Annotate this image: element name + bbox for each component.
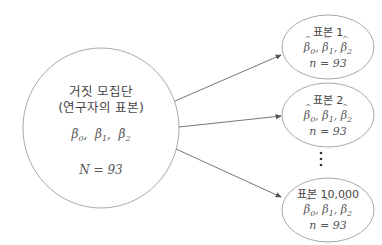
sample-estimates: β0, β1, β2 — [281, 109, 375, 125]
sample-2-node: 표본 2 β0, β1, β2 n = 93 — [281, 94, 375, 139]
arrow-to-sample-2 — [179, 116, 281, 127]
arrow-to-sample-1 — [175, 55, 281, 101]
sample-estimates: β0, β1, β2 — [281, 41, 375, 57]
ellipsis-dot — [320, 164, 323, 167]
sample-size: n = 93 — [281, 57, 375, 71]
population-params: β0, β1, β2 — [30, 127, 172, 144]
sample-10000-node: 표본 10,000 β0, β1, β2 n = 93 — [281, 188, 375, 233]
sample-size: n = 93 — [281, 125, 375, 139]
ellipsis-dot — [320, 158, 323, 161]
population-node: 거짓 모집단 (연구자의 표본) β0, β1, β2 N = 93 — [30, 84, 172, 178]
arrow-to-sample-10000 — [176, 149, 281, 197]
population-title: 거짓 모집단 — [30, 84, 172, 100]
sample-estimates: β0, β1, β2 — [281, 203, 375, 219]
population-subtitle: (연구자의 표본) — [30, 100, 172, 116]
population-size: N = 93 — [30, 163, 172, 178]
sample-size: n = 93 — [281, 219, 375, 233]
ellipsis-dot — [320, 152, 323, 155]
sample-1-node: 표본 1 β0, β1, β2 n = 93 — [281, 26, 375, 71]
